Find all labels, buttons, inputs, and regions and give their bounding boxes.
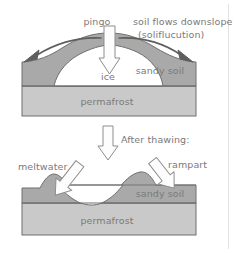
pingo-diagram-figure: pingo soil flows downslope (soliflucutio… [0,0,247,253]
ice-label: ice [101,71,115,82]
solifluction-label-line2: (soliflucution) [138,29,204,40]
top-sandy-soil-label: sandy soil [136,65,185,76]
after-thawing-label: After thawing: [121,134,189,145]
rampart-label: rampart [168,159,207,170]
bottom-permafrost-label: permafrost [80,215,133,226]
meltwater-label: meltwater [18,161,67,172]
pingo-label: pingo [83,16,110,27]
bottom-sandy-soil-label: sandy soil [136,188,185,199]
diagram-canvas: pingo soil flows downslope (soliflucutio… [0,0,247,253]
top-permafrost-label: permafrost [80,96,133,107]
solifluction-label-line1: soil flows downslope [133,16,233,27]
